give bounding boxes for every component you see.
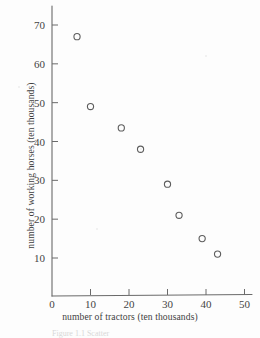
data-points	[74, 34, 221, 258]
y-tick-label: 30	[34, 174, 46, 186]
data-point-marker	[176, 212, 182, 218]
x-axis-title: number of tractors (ten thousands)	[0, 311, 260, 322]
x-tick-label: 50	[239, 298, 251, 310]
y-tick-label: 50	[34, 97, 46, 109]
data-point-marker	[118, 125, 124, 131]
scan-artifact	[96, 228, 98, 230]
scan-artifact	[205, 55, 207, 57]
y-tick-label: 70	[34, 19, 46, 31]
data-point-marker	[87, 103, 93, 109]
x-tick-label: 40	[201, 298, 213, 310]
y-tick-label: 20	[34, 213, 46, 225]
figure-caption: Figure 1.1 Scatter	[52, 329, 232, 338]
x-tick-label: 0	[49, 298, 55, 310]
data-point-marker	[74, 34, 80, 40]
y-tick-label: 10	[34, 252, 46, 264]
x-axis-ticks: 01020304050	[49, 289, 250, 310]
y-tick-label: 40	[34, 136, 46, 148]
x-tick-label: 30	[162, 298, 174, 310]
plot-canvas: 10203040506070 01020304050	[0, 0, 260, 338]
scatter-plot-figure: 10203040506070 01020304050 number of wor…	[0, 0, 260, 338]
y-axis-ticks: 10203040506070	[34, 19, 58, 264]
data-point-marker	[214, 251, 220, 257]
y-tick-label: 60	[34, 58, 46, 70]
scan-artifact	[18, 86, 20, 88]
scan-artifact	[140, 148, 142, 150]
data-point-marker	[164, 181, 170, 187]
x-axis-line	[52, 295, 252, 297]
x-tick-label: 10	[85, 298, 97, 310]
y-axis-title: number of working horses (ten thousands)	[25, 41, 36, 291]
data-point-marker	[199, 235, 205, 241]
x-tick-label: 20	[124, 298, 136, 310]
axes	[52, 6, 252, 296]
